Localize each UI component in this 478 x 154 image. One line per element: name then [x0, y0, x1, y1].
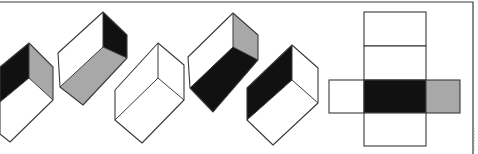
net-left: [329, 80, 364, 113]
net-center: [364, 80, 426, 113]
box-1: [0, 43, 53, 142]
cube-net: [329, 12, 460, 146]
net-top-2: [364, 46, 426, 80]
cube-net-puzzle-figure: Cube net folding puzzle: [0, 0, 478, 154]
answer-options: [0, 12, 318, 145]
net-right: [426, 80, 460, 113]
net-bottom: [364, 113, 426, 146]
net-top-1: [364, 12, 426, 46]
figure-canvas: [0, 0, 478, 154]
